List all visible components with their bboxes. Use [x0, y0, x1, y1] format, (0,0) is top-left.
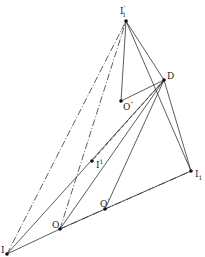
label-I-prime: I1 [96, 159, 103, 170]
point-I1p [124, 19, 128, 23]
segment-I-D [7, 80, 164, 254]
label-O: O [52, 221, 59, 230]
segment-D-O [60, 80, 164, 229]
segment-D-Op [105, 80, 164, 209]
label-I1: I1 [195, 170, 202, 181]
point-Ip [90, 159, 94, 163]
point-I [5, 252, 9, 256]
segment-O2-D [121, 80, 164, 101]
label-D: D [167, 72, 174, 81]
diagram-canvas: I'1 D O" I1 O' O I I1 [0, 0, 205, 257]
segments [7, 21, 191, 254]
label-O-double-prime: O" [123, 101, 133, 112]
label-I: I [1, 246, 5, 255]
point-I1 [189, 169, 193, 173]
segment-I1p-I1 [126, 21, 191, 171]
label-I1-prime: I'1 [120, 5, 126, 18]
geometry-figure [0, 0, 205, 257]
segment-I1p-O2 [121, 21, 126, 101]
point-D [162, 78, 166, 82]
segment-D-I1 [164, 80, 191, 171]
segment-I1p-D [126, 21, 164, 80]
points [5, 19, 193, 256]
segment-O-I1p [60, 21, 126, 229]
segment-I-O [7, 229, 60, 254]
label-O-prime: O' [100, 198, 109, 209]
